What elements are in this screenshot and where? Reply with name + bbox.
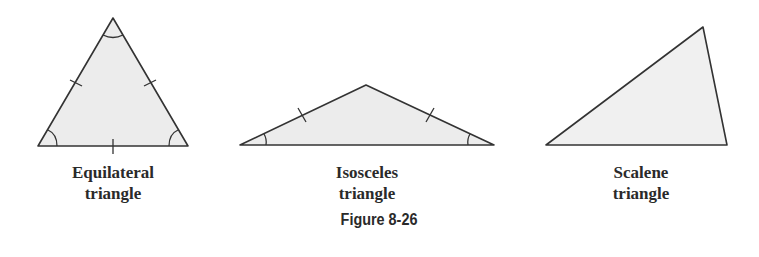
isosceles-triangle [240,85,494,145]
figure-caption: Figure 8-26 [289,211,469,229]
isosceles-label-line2: triangle [287,183,447,204]
scalene-label-line1: Scalene [561,162,721,183]
isosceles-label: Isosceles triangle [287,162,447,204]
scalene-label: Scalene triangle [561,162,721,204]
equilateral-label-line1: Equilateral [33,162,193,183]
scalene-label-line2: triangle [561,183,721,204]
isosceles-label-line1: Isosceles [287,162,447,183]
equilateral-triangle [38,18,188,154]
equilateral-label: Equilateral triangle [33,162,193,204]
equilateral-label-line2: triangle [33,183,193,204]
scalene-triangle [546,27,727,145]
figure: Equilateral triangle Isosceles triangle … [0,0,759,257]
